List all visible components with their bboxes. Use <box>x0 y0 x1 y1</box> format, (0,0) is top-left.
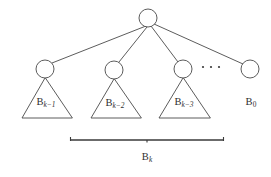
subtree-node-k-1[interactable] <box>36 60 54 78</box>
edge-root-to-k-2 <box>119 27 147 62</box>
tree-nodes <box>36 9 259 79</box>
ellipsis-dot-3 <box>218 66 220 68</box>
edge-root-to-0 <box>154 24 243 64</box>
subtree-label-k-2-subscript: k−2 <box>113 101 125 110</box>
subtree-label-0-subscript: 0 <box>253 100 257 109</box>
subtree-label-k-2: Bk−2 <box>105 98 124 109</box>
edge-root-to-k-1 <box>52 26 146 63</box>
subtree-label-k-1: Bk−1 <box>36 97 55 108</box>
subtree-node-0[interactable] <box>241 60 259 78</box>
ellipsis-dot-2 <box>210 66 212 68</box>
root-node[interactable] <box>139 9 157 27</box>
span-brace-label: Bk <box>142 152 152 163</box>
ellipsis-dots <box>202 66 220 68</box>
edge-root-to-k-3 <box>151 26 178 62</box>
subtree-node-k-2[interactable] <box>105 61 123 79</box>
span-brace-label-subscript: k <box>149 155 152 164</box>
subtree-label-0: B0 <box>246 97 257 108</box>
diagram-canvas <box>0 0 271 177</box>
subtree-label-k-1-subscript: k−1 <box>44 100 56 109</box>
subtree-label-k-3: Bk−3 <box>174 97 193 108</box>
binomial-tree-figure: Bk−1 Bk−2 Bk−3 B0 Bk <box>0 0 271 177</box>
subtree-label-k-3-subscript: k−3 <box>182 100 194 109</box>
tree-edges <box>52 24 243 64</box>
ellipsis-dot-1 <box>202 66 204 68</box>
span-brace <box>70 137 224 143</box>
subtree-node-k-3[interactable] <box>174 60 192 78</box>
